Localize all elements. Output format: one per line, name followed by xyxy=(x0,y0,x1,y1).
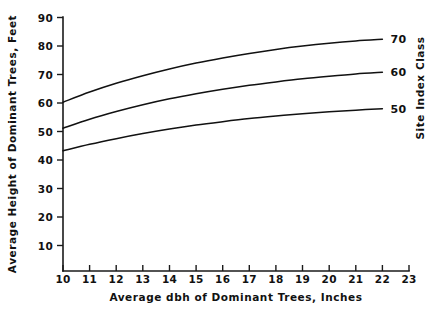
y-axis-ticks xyxy=(57,18,63,246)
x-tick-label: 14 xyxy=(162,273,177,285)
y-tick-label: 50 xyxy=(38,126,53,138)
y-tick-label: 20 xyxy=(38,211,53,223)
y-tick-label: 30 xyxy=(38,183,53,195)
y-tick-label: 90 xyxy=(38,12,53,24)
x-tick-label: 11 xyxy=(82,273,97,285)
x-tick-label: 19 xyxy=(295,273,310,285)
x-axis-title: Average dbh of Dominant Trees, Inches xyxy=(109,291,362,303)
site-index-line-chart: 90 80 70 60 50 40 30 20 10 xyxy=(0,0,438,312)
series-line-50 xyxy=(63,109,382,151)
y-tick-label: 60 xyxy=(38,97,53,109)
y-tick-label: 40 xyxy=(38,154,53,166)
x-tick-label: 12 xyxy=(109,273,124,285)
series-end-labels: 70 60 50 xyxy=(390,33,406,115)
chart-container: 90 80 70 60 50 40 30 20 10 xyxy=(0,0,438,312)
x-tick-label: 23 xyxy=(401,273,416,285)
x-tick-label: 22 xyxy=(375,273,390,285)
x-tick-label: 13 xyxy=(135,273,150,285)
series-line-60 xyxy=(63,72,382,128)
x-tick-label: 10 xyxy=(55,273,70,285)
x-tick-label: 16 xyxy=(215,273,230,285)
x-tick-label: 15 xyxy=(188,273,203,285)
x-tick-label: 21 xyxy=(348,273,363,285)
series-label-70: 70 xyxy=(390,33,406,46)
y-axis-title: Average Height of Dominant Trees, Feet xyxy=(6,15,18,273)
y-axis-tick-labels: 90 80 70 60 50 40 30 20 10 xyxy=(38,12,53,252)
x-tick-label: 20 xyxy=(322,273,337,285)
y-tick-label: 80 xyxy=(38,40,53,52)
series-line-70 xyxy=(63,39,382,102)
series-label-60: 60 xyxy=(390,66,406,79)
y-tick-label: 70 xyxy=(38,69,53,81)
secondary-y-axis-title: Site Index Class xyxy=(414,36,426,139)
x-tick-label: 17 xyxy=(242,273,257,285)
x-tick-label: 18 xyxy=(268,273,283,285)
x-axis-ticks xyxy=(63,265,409,271)
data-series-group xyxy=(63,39,382,150)
series-label-50: 50 xyxy=(390,103,406,116)
y-tick-label: 10 xyxy=(38,240,53,252)
x-axis-tick-labels: 10 11 12 13 14 15 16 17 18 19 20 21 22 2… xyxy=(55,273,416,285)
